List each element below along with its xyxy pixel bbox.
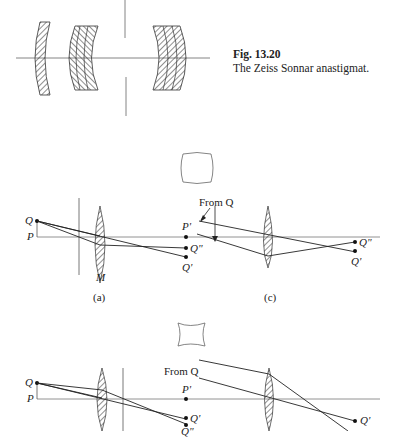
label-c: (c)	[264, 292, 276, 303]
label-q-prime: Q'	[182, 262, 192, 273]
pincushion-distortion-icon	[178, 323, 205, 346]
label-q-double-b: Q"	[181, 426, 194, 437]
diagram-d	[199, 360, 357, 431]
label-a: (a)	[93, 292, 105, 303]
label-p-b: P	[27, 393, 34, 404]
label-q-prime-b: Q'	[190, 413, 200, 424]
label-q-prime-d: Q'	[360, 415, 370, 426]
label-p-prime: P'	[182, 221, 191, 232]
label-q-double: Q"	[190, 243, 203, 254]
figure-number: Fig. 13.20	[233, 48, 369, 62]
label-q-b: Q	[25, 377, 33, 388]
sonnar-lens-diagram	[16, 0, 210, 116]
from-q-annotation-d: From Q	[164, 366, 199, 377]
label-q-double-c: Q"	[359, 237, 372, 248]
from-q-annotation: From Q	[199, 197, 234, 208]
barrel-distortion-icon	[181, 153, 213, 184]
label-p: P	[27, 231, 34, 242]
figure-caption: Fig. 13.20 The Zeiss Sonnar anastigmat.	[233, 48, 369, 76]
label-p-prime-d: P'	[182, 384, 191, 395]
diagram-b	[35, 368, 380, 431]
label-m: M	[96, 272, 105, 283]
label-q-prime-c: Q'	[351, 256, 361, 267]
label-q: Q	[25, 215, 33, 226]
figure-caption-text: The Zeiss Sonnar anastigmat.	[233, 62, 369, 74]
